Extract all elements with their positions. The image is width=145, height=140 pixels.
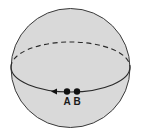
sphere [11,9,130,128]
point-a [64,88,70,94]
point-b [74,88,80,94]
point-label-a: A [63,96,70,107]
point-label-b: B [73,96,80,107]
sphere-diagram: AB [0,0,145,140]
